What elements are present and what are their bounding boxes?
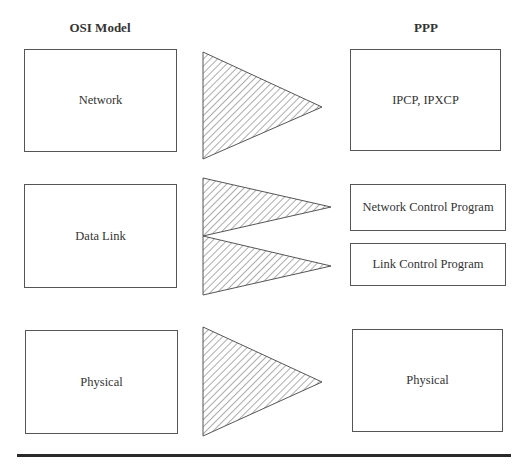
ppp-lcp-box: Link Control Program <box>350 243 506 286</box>
ppp-physical-box: Physical <box>352 329 503 432</box>
arrow-datalink-to-lcp <box>203 236 331 295</box>
ppp-lcp-label: Link Control Program <box>372 257 483 272</box>
ppp-ipcp-label: IPCP, IPXCP <box>392 93 459 108</box>
ppp-ncp-label: Network Control Program <box>362 200 493 215</box>
ppp-physical-label: Physical <box>406 373 448 388</box>
ppp-ncp-box: Network Control Program <box>350 184 506 231</box>
arrow-datalink-to-ncp <box>203 178 331 236</box>
bottom-divider-rule <box>17 454 511 457</box>
ppp-ipcp-box: IPCP, IPXCP <box>350 49 501 151</box>
arrow-physical-to-physical <box>203 327 322 436</box>
arrow-network-to-ipcp <box>203 52 322 159</box>
